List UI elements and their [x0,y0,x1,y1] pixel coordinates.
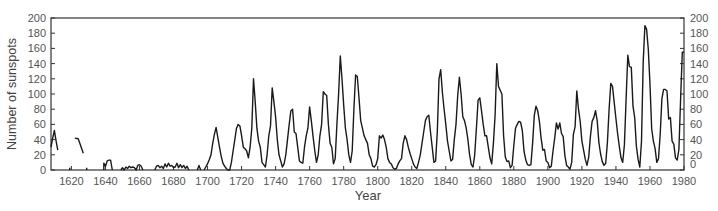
x-tick-label: 1660 [127,175,151,187]
y-tick-label-right: 100 [690,88,708,100]
y-tick-label: 80 [34,103,46,115]
x-tick-label: 1780 [331,175,355,187]
y-tick-label-right: 160 [690,42,708,54]
y-tick-label: 140 [28,58,46,70]
x-tick-label: 1860 [468,175,492,187]
y-tick-label: 100 [28,88,46,100]
y-tick-label-right: 80 [690,103,702,115]
x-tick-label: 1720 [229,175,253,187]
x-tick-label: 1680 [161,175,185,187]
x-tick-label: 1800 [365,175,389,187]
series-segment [204,26,684,170]
x-tick-label: 1620 [59,175,83,187]
y-tick-label: 60 [34,118,46,130]
y-tick-label-right: 40 [690,134,702,146]
y-tick-label: 160 [28,42,46,54]
x-tick-label: 1900 [536,175,560,187]
y-axis-title: Number of sunspots [5,38,19,150]
y-tick-label-right: 60 [690,118,702,130]
y-tick-label-right: 180 [690,27,708,39]
x-tick-label: 1840 [434,175,458,187]
sunspot-series-line [51,26,684,170]
x-tick-label: 1880 [502,175,526,187]
series-segment [75,138,84,153]
y-tick-label-right: 20 [690,149,702,161]
x-tick-label: 1940 [604,175,628,187]
x-tick-label: 1760 [297,175,321,187]
y-tick-label: 200 [28,12,46,24]
y-tick-label-right: 140 [690,58,708,70]
x-tick-label: 1640 [93,175,117,187]
y-tick-label: 20 [34,149,46,161]
y-tick-label-right: 200 [690,12,708,24]
series-segment [51,131,58,151]
x-tick-label: 1980 [672,175,696,187]
y-tick-label-right: 120 [690,73,708,85]
series-segment [155,163,189,170]
x-tick-label: 1820 [399,175,423,187]
series-segment [197,165,200,170]
x-tick-label: 1740 [263,175,287,187]
x-axis-title: Year [355,188,382,203]
y-tick-label: 180 [28,27,46,39]
x-tick-label: 1700 [195,175,219,187]
y-tick-label: 120 [28,73,46,85]
y-tick-label: 40 [34,134,46,146]
x-tick-label: 1960 [638,175,662,187]
y-tick-label: 0 [40,164,46,176]
x-tick-label: 1920 [570,175,594,187]
sunspot-chart: 020406080100120140160180200 020406080100… [0,0,718,211]
